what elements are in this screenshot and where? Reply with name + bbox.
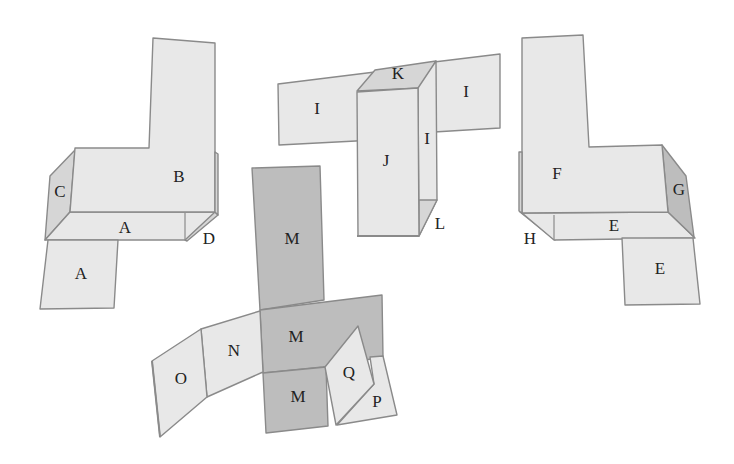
label-b: B (173, 167, 184, 186)
label-i-right: I (463, 82, 469, 101)
label-m-top: M (284, 229, 299, 248)
label-k: K (392, 64, 405, 83)
label-g: G (673, 180, 685, 199)
right-shape: F G E H E (519, 35, 700, 305)
label-m-middle: M (288, 327, 303, 346)
face-b-side (215, 152, 218, 215)
label-a-bottom: A (75, 264, 88, 283)
label-i-side: I (424, 129, 430, 148)
label-m-bottom: M (290, 387, 305, 406)
label-i-left: I (314, 99, 320, 118)
label-c: C (54, 182, 65, 201)
label-d: D (203, 229, 215, 248)
label-h: H (524, 229, 536, 248)
left-shape: B C A D A (40, 38, 218, 309)
label-a-top: A (119, 218, 132, 237)
face-f-side (519, 152, 522, 213)
label-f: F (552, 164, 561, 183)
face-f (522, 35, 668, 213)
face-b (70, 38, 215, 212)
label-l: L (435, 214, 445, 233)
label-q: Q (343, 363, 355, 382)
label-e-top: E (609, 216, 619, 235)
label-n: N (228, 341, 240, 360)
label-o: O (175, 369, 187, 388)
folded-shapes-diagram: B C A D A I I K J I L F G E H E (0, 0, 734, 464)
label-j: J (383, 151, 390, 170)
label-e-bottom: E (655, 259, 665, 278)
label-p: P (372, 392, 381, 411)
